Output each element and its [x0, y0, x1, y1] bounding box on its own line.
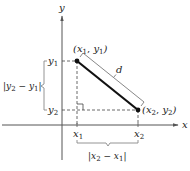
x1-tick-label: x1 [73, 128, 83, 141]
distance-label: d [116, 64, 122, 75]
vertical-diff-label: |y2 − y1| [3, 81, 41, 93]
y-axis-label: y [58, 2, 65, 13]
point-2-label: (x2, y2) [142, 104, 177, 117]
right-angle-marker [77, 104, 83, 110]
point-2 [136, 108, 141, 113]
distance-segment [77, 61, 138, 110]
distance-bracket [80, 53, 144, 106]
point-1-label: (x1, y1) [73, 43, 108, 56]
vertical-diff-brace [41, 61, 47, 110]
point-1 [75, 59, 80, 64]
x-axis-label: x [182, 119, 188, 130]
horizontal-diff-brace [77, 140, 138, 146]
dashed-guides [62, 61, 138, 125]
x2-tick-label: x2 [134, 128, 144, 141]
y2-tick-label: y2 [47, 104, 58, 117]
horizontal-diff-label: |x2 − x1| [88, 151, 126, 163]
y1-tick-label: y1 [47, 55, 58, 68]
distance-formula-diagram: x y d (x1, y1) (x2, y2) y1 y2 x1 x2 |y2 … [0, 0, 190, 171]
